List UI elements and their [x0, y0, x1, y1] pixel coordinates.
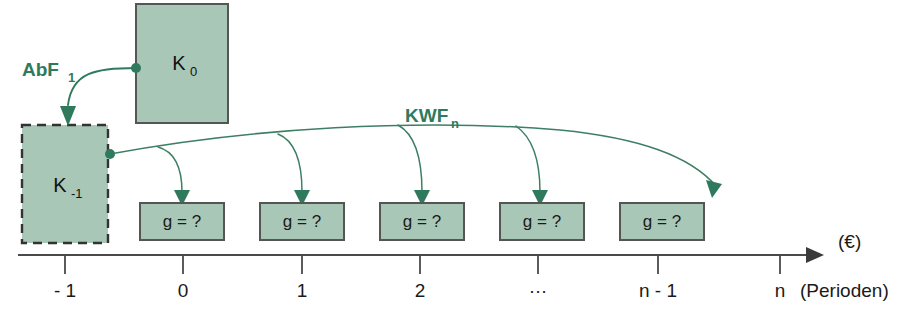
payment-box-1: g = ? [260, 203, 344, 240]
k0-label-sub: 0 [190, 64, 197, 79]
k-minus-1-label-main: K [53, 174, 67, 196]
kwf-flow-fan [105, 125, 722, 206]
axis-tick-label-2: 1 [297, 280, 308, 301]
kwf-label-sub: n [451, 116, 459, 131]
payment-box-0-label: g = ? [163, 212, 201, 231]
kwf-origin-dot [105, 149, 115, 159]
k-minus-1-label-sub: -1 [71, 186, 83, 201]
axis-tick-label-0: - 1 [54, 280, 76, 301]
annuity-diagram: K 0 K -1 AbF 1 [0, 0, 907, 320]
axis-arrow-head [806, 247, 824, 263]
diagram-canvas: K 0 K -1 AbF 1 [0, 0, 907, 320]
payment-box-0: g = ? [140, 203, 224, 240]
payment-box-2: g = ? [380, 203, 464, 240]
kwf-branch-2 [398, 125, 422, 192]
axis-tick-label-6: n [775, 280, 786, 301]
kwf-branch-0 [158, 147, 182, 192]
capital-box-k0: K 0 [136, 4, 228, 123]
payment-box-1-label: g = ? [283, 212, 321, 231]
abf-label-group: AbF 1 [22, 59, 75, 85]
kwf-branch-1 [278, 134, 302, 192]
axis-tick-label-5: n - 1 [639, 280, 677, 301]
capital-box-k-minus-1: K -1 [22, 125, 108, 243]
k0-label-main: K [172, 52, 186, 74]
abf-label-sub: 1 [68, 70, 75, 85]
abf-arrow-head [60, 106, 76, 126]
kwf-arrow-head-4 [706, 180, 722, 198]
payment-box-3: g = ? [500, 203, 584, 240]
payment-box-2-label: g = ? [403, 212, 441, 231]
kwf-branch-3 [516, 126, 540, 192]
kwf-label-main: KWF [405, 105, 448, 126]
payment-box-4-label: g = ? [643, 212, 681, 231]
kwf-spine-curve [110, 125, 716, 186]
axis-tick-label-3: 2 [415, 280, 426, 301]
payment-box-3-label: g = ? [523, 212, 561, 231]
axis-periods-label: (Perioden) [800, 280, 889, 301]
axis-unit-label: (€) [838, 231, 861, 252]
kwf-label-group: KWF n [405, 105, 459, 131]
abf-label-main: AbF [22, 59, 59, 80]
payment-box-4: g = ? [620, 203, 704, 240]
axis-tick-label-4: … [529, 276, 548, 297]
abf-curve-path [68, 68, 136, 105]
time-axis: - 1 0 1 2 … n - 1 n (€) (Perioden) [18, 231, 889, 301]
axis-tick-label-1: 0 [178, 280, 189, 301]
